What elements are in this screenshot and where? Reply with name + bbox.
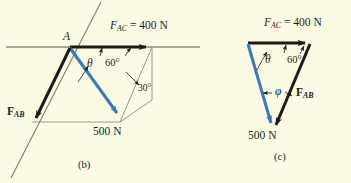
vector-f-ab-panel-b xyxy=(36,48,70,118)
angle-30-label-panel-b: 30° xyxy=(138,84,151,94)
f-ac-value-panel-c: = 400 N xyxy=(281,16,322,28)
f-ac-label-panel-b: FAC = 400 N xyxy=(110,20,168,33)
f-ab-subscript-panel-c: AB xyxy=(303,91,313,100)
angle-60-label-panel-b: 60° xyxy=(105,58,120,69)
angle-60-leader-right-panel-c xyxy=(300,46,304,54)
f-ac-symbol-panel-c: F xyxy=(264,16,271,28)
inclined-cable-line xyxy=(11,2,101,178)
f-ab-subscript-panel-b: AB xyxy=(14,110,24,119)
angle-60-leader-left-panel-c xyxy=(284,45,286,53)
f-ab-label-panel-b: FAB xyxy=(7,106,24,119)
angle-60-leader-right-panel-b xyxy=(125,48,131,56)
f-ab-symbol-panel-c: F xyxy=(296,86,303,98)
theta-label-panel-c: θ xyxy=(265,54,271,66)
f-ac-label-panel-c: FAC = 400 N xyxy=(264,17,322,30)
caption-panel-c: (c) xyxy=(274,152,286,163)
f-ac-subscript-panel-c: AC xyxy=(271,21,281,30)
f-ac-value-panel-b: = 400 N xyxy=(127,19,168,31)
angle-60-label-panel-c: 60° xyxy=(287,55,302,66)
phi-label-panel-c: φ xyxy=(275,86,281,98)
f-ab-label-panel-c: FAB xyxy=(296,87,313,100)
angle-60-leader-left-panel-b xyxy=(100,48,102,56)
weight-label-panel-b: 500 N xyxy=(93,126,121,138)
f-ab-symbol-panel-b: F xyxy=(7,105,14,117)
f-ac-symbol-panel-b: F xyxy=(110,19,117,31)
f-ac-subscript-panel-b: AC xyxy=(117,24,127,33)
weight-label-panel-c: 500 N xyxy=(248,130,276,142)
panel-b-graphics xyxy=(6,2,200,178)
figure-canvas: A FAC = 400 N θ 60° 30° FAB 500 N (b) FA… xyxy=(0,0,351,183)
theta-label-panel-b: θ xyxy=(87,58,93,70)
caption-panel-b: (b) xyxy=(78,160,90,171)
point-label-a: A xyxy=(63,31,70,43)
